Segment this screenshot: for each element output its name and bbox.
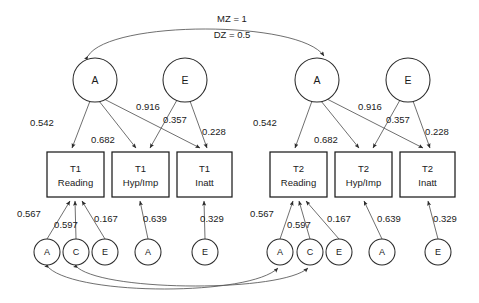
indicator-box-t1-reading-line1: T1 — [70, 163, 81, 174]
latent-node-t2-A-label: A — [313, 74, 320, 86]
latent-node-t2-A[interactable]: A — [295, 58, 339, 102]
residual-node-t1-A-hypimp-label: A — [145, 247, 151, 257]
indicator-boxes: T1 Reading T1 Hyp/Imp T1 Inatt T2 Readin… — [47, 152, 455, 197]
coef-t1-a-inatt: 0.682 — [91, 134, 115, 145]
diagram-canvas: MZ = 1 DZ = 0.5 — [0, 0, 479, 303]
latent-node-t1-A[interactable]: A — [73, 58, 117, 102]
coef-t2-a-inatt: 0.682 — [314, 134, 338, 145]
coef-t1-res-a-reading: 0.567 — [17, 208, 41, 219]
coef-t2-res-e-inatt: 0.329 — [433, 213, 457, 224]
latent-node-t1-E-label: E — [181, 74, 188, 86]
indicator-box-t1-inatt-line1: T1 — [199, 163, 210, 174]
indicator-box-t2-reading-line1: T2 — [293, 163, 304, 174]
coef-t2-a-hypimp: 0.916 — [358, 101, 382, 112]
indicator-box-t1-inatt[interactable]: T1 Inatt — [177, 152, 232, 197]
indicator-box-t1-hypimp-line2: Hyp/Imp — [123, 177, 158, 188]
indicator-box-t2-hypimp[interactable]: T2 Hyp/Imp — [335, 152, 392, 197]
coef-t2-a-reading: 0.542 — [253, 117, 277, 128]
coef-t2-e-inatt: 0.228 — [425, 126, 449, 137]
coef-t1-res-e-inatt: 0.329 — [200, 213, 224, 224]
latent-node-t2-E[interactable]: E — [386, 58, 430, 102]
indicator-box-t1-hypimp-line1: T1 — [135, 163, 146, 174]
residual-node-t2-E-inatt-label: E — [435, 247, 441, 257]
residual-correlation-arcs — [49, 268, 308, 289]
residual-node-t2-A-reading-label: A — [277, 247, 283, 257]
indicator-box-t2-inatt[interactable]: T2 Inatt — [400, 152, 455, 197]
latent-node-t1-E[interactable]: E — [163, 58, 207, 102]
twin-correlation-arc — [88, 29, 324, 56]
residual-node-t2-A-hypimp[interactable]: A — [369, 239, 395, 265]
latent-node-t2-E-label: E — [404, 74, 411, 86]
coef-t1-res-c-reading: 0.597 — [54, 219, 78, 230]
indicator-box-t1-hypimp[interactable]: T1 Hyp/Imp — [112, 152, 169, 197]
indicator-box-t2-reading-line2: Reading — [281, 177, 316, 188]
coef-t1-a-hypimp: 0.916 — [136, 101, 160, 112]
coef-t2-res-a-hypimp: 0.639 — [377, 213, 401, 224]
bottom-coefficient-labels: 0.567 0.597 0.167 0.639 0.329 0.567 0.59… — [17, 208, 457, 230]
indicator-box-t1-reading-line2: Reading — [58, 177, 93, 188]
mz-correlation-label: MZ = 1 — [217, 13, 247, 24]
coef-t2-e-hypimp: 0.357 — [386, 114, 410, 125]
coef-t1-a-reading: 0.542 — [30, 117, 54, 128]
bottom-latent-nodes: A C E A E A C — [34, 239, 451, 265]
coef-t1-res-a-hypimp: 0.639 — [143, 213, 167, 224]
indicator-box-t2-hypimp-line1: T2 — [358, 163, 369, 174]
coef-t1-e-inatt: 0.228 — [202, 126, 226, 137]
residual-node-t1-A-hypimp[interactable]: A — [135, 239, 161, 265]
indicator-box-t2-hypimp-line2: Hyp/Imp — [346, 177, 381, 188]
indicator-box-t2-reading[interactable]: T2 Reading — [270, 152, 327, 197]
top-coefficient-labels: 0.542 0.916 0.682 0.357 0.228 0.542 0.91… — [30, 101, 449, 145]
residual-node-t2-E-reading-label: E — [336, 247, 342, 257]
indicator-box-t1-reading[interactable]: T1 Reading — [47, 152, 104, 197]
residual-node-t2-E-inatt[interactable]: E — [425, 239, 451, 265]
residual-node-t1-E-reading[interactable]: E — [92, 239, 118, 265]
indicator-box-t2-inatt-line2: Inatt — [418, 177, 437, 188]
residual-node-t1-C-reading-label: C — [73, 247, 80, 257]
residual-node-t2-A-hypimp-label: A — [379, 247, 385, 257]
residual-node-t2-A-reading[interactable]: A — [267, 239, 293, 265]
residual-node-t1-C-reading[interactable]: C — [63, 239, 89, 265]
top-latent-nodes: A E A E — [73, 58, 430, 102]
indicator-box-t1-inatt-line2: Inatt — [195, 177, 214, 188]
dz-correlation-label: DZ = 0.5 — [214, 29, 251, 40]
residual-node-t1-E-inatt[interactable]: E — [192, 239, 218, 265]
coef-t1-res-e-reading: 0.167 — [94, 213, 118, 224]
coef-t1-e-hypimp: 0.357 — [163, 114, 187, 125]
residual-node-t2-C-reading[interactable]: C — [297, 239, 323, 265]
residual-node-t1-A-reading-label: A — [44, 247, 50, 257]
residual-node-t1-E-inatt-label: E — [202, 247, 208, 257]
residual-node-t2-C-reading-label: C — [307, 247, 314, 257]
coef-t2-res-e-reading: 0.167 — [327, 213, 351, 224]
sem-path-diagram: MZ = 1 DZ = 0.5 — [0, 0, 479, 303]
coef-t2-res-c-reading: 0.597 — [287, 219, 311, 230]
residual-node-t1-A-reading[interactable]: A — [34, 239, 60, 265]
residual-node-t2-E-reading[interactable]: E — [326, 239, 352, 265]
latent-node-t1-A-label: A — [91, 74, 98, 86]
indicator-box-t2-inatt-line1: T2 — [422, 163, 433, 174]
coef-t2-res-a-reading: 0.567 — [250, 208, 274, 219]
residual-node-t1-E-reading-label: E — [102, 247, 108, 257]
